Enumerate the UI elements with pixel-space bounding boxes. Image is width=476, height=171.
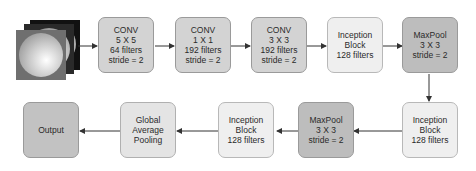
node-label: 1 X 1: [193, 35, 213, 45]
node-label: 3 X 3: [316, 125, 336, 135]
node-label: 128 filters: [337, 50, 374, 60]
node-label: stride = 2: [261, 55, 296, 65]
node-label: 64 filters: [110, 45, 142, 55]
node-label: CONV: [191, 25, 216, 35]
node-label: MaxPool: [309, 115, 342, 125]
node-label: Global: [136, 115, 161, 125]
node-label: 128 filters: [412, 135, 449, 145]
inception-block-1-node: Inception Block 128 filters: [327, 17, 383, 73]
node-label: stride = 2: [308, 135, 343, 145]
node-label: CONV: [267, 25, 292, 35]
conv-5x5-node: CONV 5 X 5 64 filters stride = 2: [98, 17, 154, 73]
node-label: Block: [420, 125, 441, 135]
node-label: 192 filters: [185, 45, 222, 55]
conv-1x1-node: CONV 1 X 1 192 filters stride = 2: [175, 17, 231, 73]
node-label: stride = 2: [108, 55, 143, 65]
node-label: 192 filters: [261, 45, 298, 55]
node-label: Pooling: [134, 135, 162, 145]
node-label: Inception: [338, 30, 373, 40]
node-label: 5 X 5: [116, 35, 136, 45]
maxpool-2-node: MaxPool 3 X 3 stride = 2: [298, 102, 354, 158]
global-average-pooling-node: Global Average Pooling: [120, 102, 176, 158]
node-label: CONV: [114, 25, 139, 35]
node-label: Inception: [229, 115, 264, 125]
node-label: stride = 2: [412, 50, 447, 60]
node-label: Block: [345, 40, 366, 50]
node-label: Block: [236, 125, 257, 135]
node-label: 3 X 3: [420, 40, 440, 50]
output-node: Output: [23, 102, 79, 158]
conv-3x3-node: CONV 3 X 3 192 filters stride = 2: [251, 17, 307, 73]
inception-block-2-node: Inception Block 128 filters: [402, 102, 458, 158]
node-label: 128 filters: [228, 135, 265, 145]
node-label: Output: [38, 125, 64, 135]
node-label: Inception: [413, 115, 448, 125]
inception-block-3-node: Inception Block 128 filters: [218, 102, 274, 158]
node-label: 3 X 3: [269, 35, 289, 45]
node-label: Average: [132, 125, 164, 135]
node-label: MaxPool: [413, 30, 446, 40]
node-label: stride = 2: [185, 55, 220, 65]
maxpool-1-node: MaxPool 3 X 3 stride = 2: [402, 17, 458, 73]
